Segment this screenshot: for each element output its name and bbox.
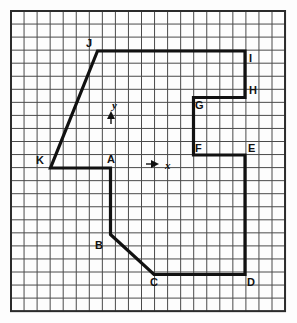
vertex-label-g: G bbox=[195, 100, 204, 111]
vertex-label-e: E bbox=[248, 143, 255, 154]
vertex-label-d: D bbox=[247, 277, 255, 288]
vertex-label-f: F bbox=[195, 143, 202, 154]
vertex-label-h: H bbox=[249, 85, 257, 96]
vertex-label-j: J bbox=[86, 38, 92, 49]
vertex-label-a: A bbox=[107, 154, 115, 165]
coordinate-grid-figure: ABCDEFGHIJK yx bbox=[0, 0, 297, 323]
vertex-label-b: B bbox=[95, 240, 103, 251]
vertex-label-k: K bbox=[36, 155, 44, 166]
polygon-shape bbox=[51, 51, 246, 275]
vertex-label-i: I bbox=[249, 53, 252, 64]
y-axis-marker-label: y bbox=[112, 100, 117, 111]
diagram-canvas bbox=[0, 0, 297, 323]
x-axis-marker-label: x bbox=[165, 160, 171, 171]
vertex-label-c: C bbox=[150, 277, 158, 288]
